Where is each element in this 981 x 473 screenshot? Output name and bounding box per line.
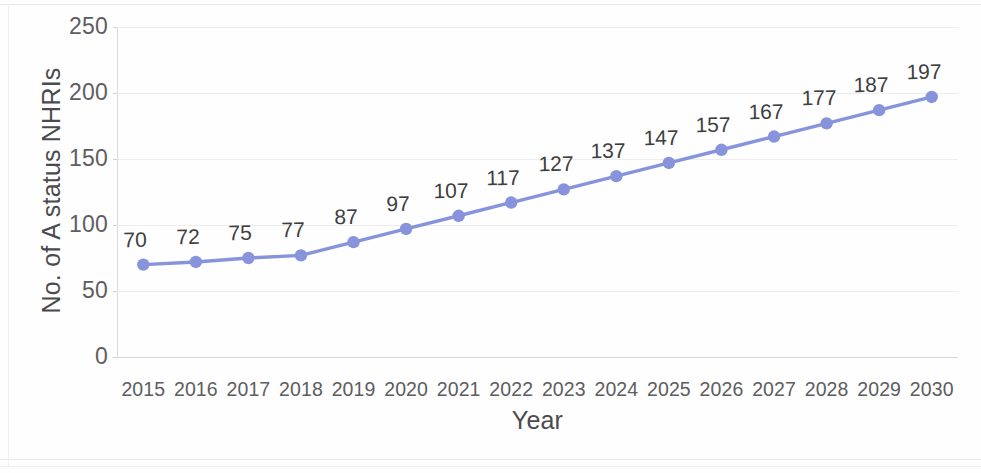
x-axis-title: Year <box>117 406 958 435</box>
y-tick-mark-0 <box>113 357 117 358</box>
data-point-2026 <box>715 144 727 156</box>
data-point-2018 <box>295 249 307 261</box>
data-point-2022 <box>505 196 517 208</box>
y-tick-mark-150 <box>113 159 117 160</box>
data-point-2028 <box>820 117 832 129</box>
y-tick-mark-250 <box>113 27 117 28</box>
data-point-2021 <box>452 210 464 222</box>
data-point-2017 <box>242 252 254 264</box>
data-point-2020 <box>400 223 412 235</box>
y-tick-mark-200 <box>113 93 117 94</box>
data-point-2016 <box>190 256 202 268</box>
data-point-2030 <box>926 91 938 103</box>
chart-page: No. of A status NHRIs 050100150200250 20… <box>0 0 981 473</box>
data-point-2029 <box>873 104 885 116</box>
line-chart: No. of A status NHRIs 050100150200250 20… <box>0 0 981 473</box>
y-tick-mark-50 <box>113 291 117 292</box>
data-label-2030: 197 <box>889 60 959 82</box>
data-point-2015 <box>137 258 149 270</box>
y-tick-mark-100 <box>113 225 117 226</box>
data-point-2019 <box>347 236 359 248</box>
data-point-2023 <box>558 183 570 195</box>
data-point-2024 <box>610 170 622 182</box>
data-point-2025 <box>663 157 675 169</box>
data-point-2027 <box>768 130 780 142</box>
